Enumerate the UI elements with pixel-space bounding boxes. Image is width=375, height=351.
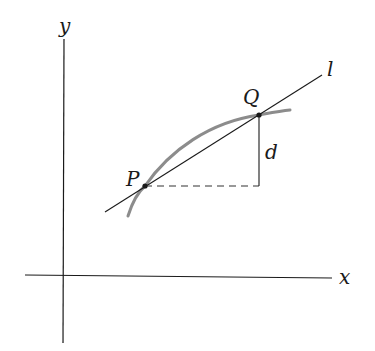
secant-diagram: y x l Q P d xyxy=(0,0,375,351)
distance-d-label: d xyxy=(265,140,278,164)
y-axis xyxy=(63,39,64,343)
point-p-label: P xyxy=(125,167,140,191)
secant-line-l xyxy=(105,75,322,212)
x-axis xyxy=(25,275,332,278)
line-l-label: l xyxy=(327,57,333,81)
point-q-marker xyxy=(256,112,261,117)
point-q-label: Q xyxy=(243,85,259,109)
y-axis-label: y xyxy=(58,14,71,38)
x-axis-label: x xyxy=(339,265,350,289)
point-p-marker xyxy=(142,183,147,188)
